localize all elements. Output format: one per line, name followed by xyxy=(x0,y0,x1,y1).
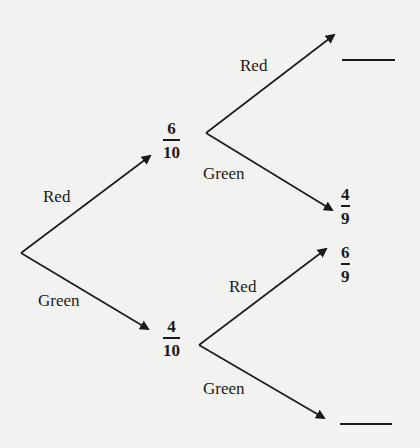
numerator: 6 xyxy=(341,244,350,261)
numerator: 6 xyxy=(167,120,176,137)
label-first-red: Red xyxy=(43,188,70,205)
denominator: 10 xyxy=(163,342,180,359)
denominator: 9 xyxy=(341,210,350,227)
prob-first-green: 4 10 xyxy=(163,318,180,359)
prob-red-green: 4 9 xyxy=(341,186,350,227)
branch-green-red xyxy=(199,249,326,345)
denominator: 9 xyxy=(341,268,350,285)
prob-first-red: 6 10 xyxy=(163,120,180,161)
branch-first-red xyxy=(21,156,150,253)
label-red-red: Red xyxy=(240,57,267,74)
denominator: 10 xyxy=(163,144,180,161)
label-red-green: Green xyxy=(203,165,245,182)
label-green-green: Green xyxy=(203,380,245,397)
fraction-bar xyxy=(163,139,180,141)
fraction-bar xyxy=(341,263,350,265)
blank-answer-red-red[interactable] xyxy=(342,59,395,61)
fraction-bar xyxy=(341,205,350,207)
numerator: 4 xyxy=(167,318,176,335)
label-first-green: Green xyxy=(38,292,80,309)
label-green-red: Red xyxy=(229,278,256,295)
blank-answer-green-green[interactable] xyxy=(340,423,392,425)
numerator: 4 xyxy=(341,186,350,203)
branch-red-red xyxy=(206,35,334,133)
prob-green-red: 6 9 xyxy=(341,244,350,285)
fraction-bar xyxy=(163,337,180,339)
